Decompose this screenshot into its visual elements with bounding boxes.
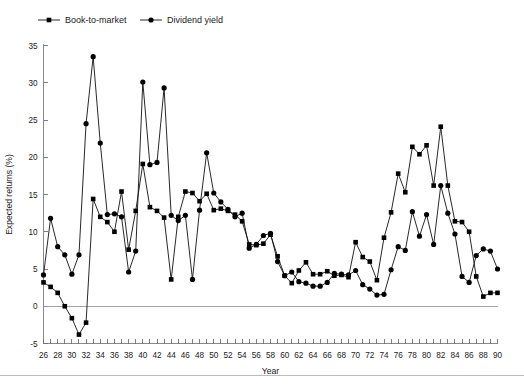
data-point-marker [389, 210, 394, 215]
data-point-marker [332, 271, 337, 276]
data-point-marker [211, 208, 216, 213]
x-tick-label: 66 [323, 351, 333, 360]
x-tick-label: 36 [110, 351, 120, 360]
data-point-marker [417, 234, 422, 239]
data-point-marker [410, 209, 415, 214]
data-point-marker [211, 190, 216, 195]
data-point-marker [459, 274, 464, 279]
data-point-marker [48, 285, 53, 290]
y-tick-label: 30 [28, 79, 38, 88]
y-tick-label: 10 [28, 228, 38, 237]
data-point-marker [77, 332, 82, 337]
data-point-marker [374, 292, 379, 297]
data-point-marker [360, 255, 365, 260]
data-point-marker [381, 292, 386, 297]
data-point-marker [162, 215, 167, 220]
data-point-marker [382, 235, 387, 240]
data-point-marker [424, 212, 429, 217]
data-point-marker [247, 246, 252, 251]
data-point-marker [62, 304, 67, 309]
data-point-marker [176, 218, 181, 223]
data-point-marker [388, 267, 393, 272]
x-tick-label: 76 [394, 351, 404, 360]
data-point-marker [119, 214, 124, 219]
x-tick-label: 30 [67, 351, 77, 360]
data-point-marker [183, 189, 188, 194]
data-point-marker [375, 278, 380, 283]
data-point-marker [353, 240, 358, 245]
data-point-marker [204, 191, 209, 196]
data-point-marker [154, 160, 159, 165]
x-tick-label: 28 [53, 351, 63, 360]
y-tick-label: 5 [33, 265, 38, 274]
data-point-marker [155, 209, 160, 214]
legend-item-book-to-market[interactable]: Book-to-market [38, 15, 127, 25]
data-point-marker [98, 140, 103, 145]
data-point-marker [325, 269, 330, 274]
y-tick-label: 35 [28, 42, 38, 51]
legend-square-marker-icon [47, 18, 52, 23]
data-point-marker [424, 143, 429, 148]
data-point-marker [446, 183, 451, 188]
data-point-marker [91, 197, 96, 202]
data-point-marker [41, 280, 46, 285]
x-tick-label: 56 [252, 351, 262, 360]
x-tick-label: 86 [465, 351, 475, 360]
x-axis-title: Year [262, 366, 280, 376]
data-point-marker [289, 281, 294, 286]
data-point-marker [297, 268, 302, 273]
data-point-marker [232, 214, 237, 219]
x-tick-label: 50 [209, 351, 219, 360]
x-tick-label: 48 [195, 351, 205, 360]
data-point-marker [460, 220, 465, 225]
data-point-marker [339, 272, 344, 277]
expected-returns-line-chart: Book-to-marketDividend yield -5051015202… [0, 0, 524, 385]
x-tick-label: 68 [337, 351, 347, 360]
data-point-marker [41, 272, 46, 277]
legend-circle-marker-icon [148, 17, 153, 22]
data-point-marker [140, 79, 145, 84]
data-point-marker [268, 231, 273, 236]
plot-frame [0, 44, 524, 376]
data-point-marker [495, 291, 500, 296]
x-tick-label: 62 [294, 351, 304, 360]
data-point-marker [98, 215, 103, 220]
x-tick-label: 34 [96, 351, 106, 360]
data-point-marker [467, 229, 472, 234]
data-point-marker [403, 248, 408, 253]
data-point-marker [218, 199, 223, 204]
data-point-marker [183, 213, 188, 218]
y-axis-title: Expected returns (%) [4, 154, 14, 235]
data-point-marker [197, 208, 202, 213]
x-tick-label: 46 [181, 351, 191, 360]
data-point-marker [367, 287, 372, 292]
data-point-marker [438, 124, 443, 129]
data-point-marker [318, 284, 323, 289]
data-point-marker [474, 274, 479, 279]
data-point-marker [303, 281, 308, 286]
data-point-marker [310, 284, 315, 289]
x-tick-label: 78 [408, 351, 418, 360]
data-point-marker [289, 269, 294, 274]
data-point-marker [325, 280, 330, 285]
data-point-marker [296, 279, 301, 284]
x-tick-label: 32 [82, 351, 92, 360]
data-point-marker [445, 211, 450, 216]
data-point-marker [148, 205, 153, 210]
data-point-marker [261, 241, 266, 246]
data-point-marker [495, 266, 500, 271]
data-point-marker [481, 246, 486, 251]
data-series [41, 54, 500, 337]
data-point-marker [126, 269, 131, 274]
chart-figure: Book-to-marketDividend yield -5051015202… [0, 0, 524, 385]
data-point-marker [225, 207, 230, 212]
legend-item-dividend-yield[interactable]: Dividend yield [140, 15, 223, 25]
data-point-marker [417, 152, 422, 157]
x-tick-label: 42 [152, 351, 162, 360]
data-point-marker [219, 206, 224, 211]
y-tick-label: 0 [33, 302, 38, 311]
data-point-marker [169, 277, 174, 282]
y-axis-ticks: -505101520253035 [28, 42, 48, 349]
x-axis-ticks: 2628303234363840424446485052545658606264… [39, 339, 503, 360]
data-point-marker [76, 252, 81, 257]
